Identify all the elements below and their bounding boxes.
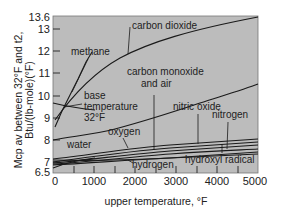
y-tick-13.6: 13.6 xyxy=(29,11,50,23)
label-base-3: 32°F xyxy=(84,112,105,123)
x-tick-4000: 4000 xyxy=(205,175,229,187)
y-tick-13: 13 xyxy=(38,23,50,35)
label-oxygen: oxygen xyxy=(108,126,140,137)
y-axis-title: Mcp av between 32°F and t2, Btu/(lb-mole… xyxy=(12,32,35,169)
x-tick-0: 0 xyxy=(52,175,58,187)
label-nitrogen: nitrogen xyxy=(212,109,248,120)
x-axis-title: upper temperature, °F xyxy=(105,195,208,207)
label-base-2: temperature xyxy=(84,101,138,112)
x-tick-labels: 0 1000 2000 3000 4000 5000 xyxy=(52,175,267,187)
label-hydroxyl-radical: hydroxyl radical xyxy=(185,154,254,165)
label-base-1: base xyxy=(84,90,106,101)
label-methane: methane xyxy=(71,46,110,57)
y-tick-12: 12 xyxy=(38,45,50,57)
x-tick-1000: 1000 xyxy=(82,175,106,187)
x-tick-5000: 5000 xyxy=(243,175,267,187)
y-tick-10: 10 xyxy=(38,90,50,102)
label-carbon-dioxide: carbon dioxide xyxy=(132,20,197,31)
label-hydrogen: hydrogen xyxy=(132,159,174,170)
y-tick-6.5: 6.5 xyxy=(35,166,50,178)
chart: 13.6 13 12 11 10 9 8 7 6.5 0 1000 2000 3… xyxy=(0,0,281,214)
y-axis-title-line2: Btu/(lb-mole)(°F) xyxy=(23,61,35,139)
y-tick-11: 11 xyxy=(39,67,50,79)
x-tick-2000: 2000 xyxy=(123,175,147,187)
y-tick-8: 8 xyxy=(44,134,50,146)
y-tick-9: 9 xyxy=(44,112,50,124)
label-water: water xyxy=(66,139,92,150)
label-co-air-2: and air xyxy=(141,78,172,89)
label-co-air-1: carbon monoxide xyxy=(127,66,204,77)
x-tick-3000: 3000 xyxy=(164,175,188,187)
